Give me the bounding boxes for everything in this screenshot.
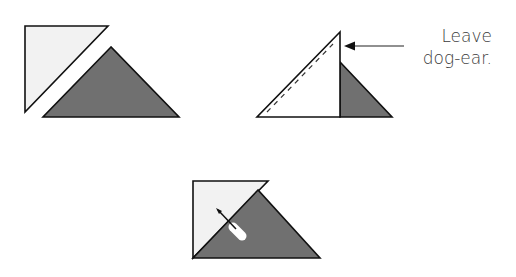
white-triangle: [257, 32, 340, 117]
figure-step-1: [25, 26, 179, 117]
figure-step-2: [257, 32, 404, 117]
figure-step-3: [193, 181, 320, 258]
dark-dog-ear-triangle: [340, 62, 392, 117]
arrow-head-icon: [344, 42, 355, 51]
annotation-line-1: Leave: [400, 25, 492, 47]
annotation-line-2: dog-ear.: [400, 47, 492, 69]
dog-ear-annotation: Leave dog-ear.: [400, 25, 492, 69]
